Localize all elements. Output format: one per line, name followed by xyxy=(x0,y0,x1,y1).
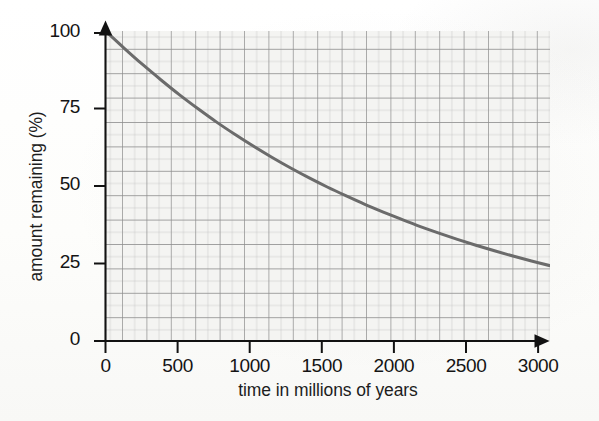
x-axis-ticks xyxy=(106,341,539,353)
x-axis-title: time in millions of years xyxy=(105,380,551,401)
y-tick-label-100: 100 xyxy=(32,20,80,42)
chart-figure: 100 75 50 25 0 0 500 1000 1500 2000 2500… xyxy=(0,0,599,421)
y-axis-ticks xyxy=(94,33,106,341)
x-tick-label-3000: 3000 xyxy=(496,355,580,377)
y-tick-label-0: 0 xyxy=(32,328,80,350)
y-axis-title: amount remaining (%) xyxy=(26,67,47,327)
plot-area: 100 75 50 25 0 0 500 1000 1500 2000 2500… xyxy=(0,0,599,421)
